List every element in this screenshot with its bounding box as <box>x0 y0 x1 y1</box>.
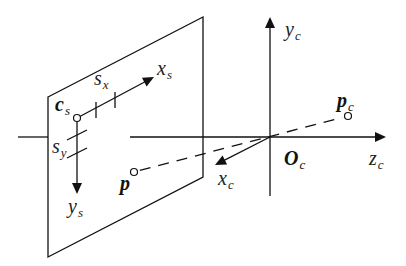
label-o-c: Oc <box>284 148 305 171</box>
label-s-x: sx <box>94 68 109 91</box>
label-x-c: xc <box>218 168 234 191</box>
point-cs-marker <box>74 115 81 122</box>
label-y-c: yc <box>285 19 301 42</box>
y-c-arrowhead-icon <box>265 17 275 28</box>
x-c-axis <box>222 137 270 161</box>
label-p: p <box>120 173 131 196</box>
z-c-arrowhead-icon <box>375 132 386 142</box>
projection-ray <box>140 118 342 171</box>
diagram-canvas <box>0 0 406 266</box>
label-z-c: zc <box>369 148 384 171</box>
label-x-s: xs <box>157 58 172 81</box>
y-s-arrowhead-icon <box>72 183 82 194</box>
point-p-marker <box>131 169 138 176</box>
label-s-y: sy <box>52 136 67 159</box>
label-y-s: ys <box>68 196 83 219</box>
x-s-axis <box>77 81 147 118</box>
camera-projection-diagram: cs sx xs sy ys p pc yc xc Oc zc <box>0 0 406 266</box>
label-c-s: cs <box>55 94 70 117</box>
label-p-c: pc <box>337 90 354 113</box>
